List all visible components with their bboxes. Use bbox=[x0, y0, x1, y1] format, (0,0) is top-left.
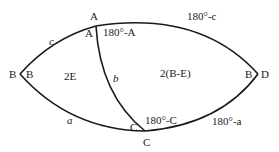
region-label-2e: 2E bbox=[64, 70, 77, 82]
side-label-c: c bbox=[49, 35, 54, 47]
vertex-label-b-left-inner: B bbox=[26, 68, 33, 80]
vertex-label-c-outer: C bbox=[143, 136, 150, 148]
vertex-label-b-left-outer: B bbox=[9, 68, 16, 80]
vertex-label-c-inner: C bbox=[130, 121, 137, 133]
vertex-label-b-right: B bbox=[245, 68, 252, 80]
region-label-2-b-minus-e: 2(B-E) bbox=[160, 67, 191, 80]
angle-label-180-minus-c: 180°-C bbox=[145, 114, 177, 126]
angle-label-180-minus-a: 180°-A bbox=[103, 26, 136, 38]
vertex-label-a-outer: A bbox=[90, 10, 98, 22]
arc-side-b bbox=[96, 26, 145, 131]
side-label-180-minus-c: 180°-c bbox=[187, 10, 217, 22]
side-label-a: a bbox=[67, 114, 73, 126]
spherical-triangle-diagram: A A B B B D C C 180°-A 180°-C c a b 180°… bbox=[0, 0, 279, 152]
arc-bottom-left-side-a bbox=[20, 74, 145, 131]
side-label-180-minus-a: 180°-a bbox=[212, 115, 242, 127]
vertex-label-a-inner: A bbox=[85, 27, 93, 39]
vertex-label-d: D bbox=[261, 68, 269, 80]
side-label-b: b bbox=[113, 72, 119, 84]
